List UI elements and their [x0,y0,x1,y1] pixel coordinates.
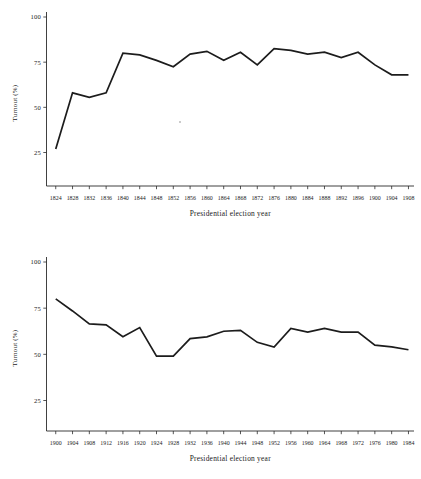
x-tick-label-1908: 1908 [83,440,95,446]
y-tick-label-100: 100 [31,258,42,265]
x-tick-label-1984: 1984 [403,440,415,446]
x-tick-label-1916: 1916 [117,440,129,446]
x-tick-label-1856: 1856 [184,195,196,201]
turnout-line-chart-top: 2550751001824182818321836184018441848185… [0,0,421,239]
x-tick-label-1864: 1864 [218,195,230,201]
x-tick-label-1876: 1876 [268,195,280,201]
x-tick-label-1980: 1980 [386,440,398,446]
axis-lines [47,12,415,186]
x-tick-label-1960: 1960 [302,440,314,446]
y-tick-label-100: 100 [31,13,42,20]
x-tick-label-1872: 1872 [251,195,263,201]
x-tick-label-1900: 1900 [369,195,381,201]
figure-page: 2550751001824182818321836184018441848185… [0,0,421,479]
x-tick-label-1888: 1888 [319,195,331,201]
x-tick-label-1904: 1904 [386,195,398,201]
x-tick-label-1908: 1908 [403,195,415,201]
x-tick-label-1924: 1924 [151,440,163,446]
x-tick-label-1884: 1884 [302,195,314,201]
x-tick-label-1932: 1932 [184,440,196,446]
x-tick-label-1880: 1880 [285,195,297,201]
y-tick-label-75: 75 [34,59,41,66]
x-tick-label-1900: 1900 [50,440,62,446]
x-tick-label-1964: 1964 [319,440,331,446]
x-tick-label-1904: 1904 [67,440,79,446]
y-tick-label-25: 25 [34,149,41,156]
x-tick-label-1840: 1840 [117,195,129,201]
x-tick-label-1912: 1912 [100,440,112,446]
y-tick-label-50: 50 [34,104,41,111]
x-tick-label-1976: 1976 [369,440,381,446]
x-axis-title: Presidential election year [190,454,271,463]
x-tick-label-1944: 1944 [235,440,247,446]
x-tick-label-1852: 1852 [167,195,179,201]
scan-artifact-speck [179,121,181,123]
chart-panel-top: 2550751001824182818321836184018441848185… [0,0,421,239]
x-tick-label-1968: 1968 [335,440,347,446]
y-tick-label-50: 50 [34,351,41,358]
x-tick-label-1860: 1860 [201,195,213,201]
x-tick-label-1868: 1868 [235,195,247,201]
y-tick-label-25: 25 [34,397,41,404]
x-tick-label-1952: 1952 [268,440,280,446]
turnout-line-chart-bottom: 2550751001900190419081912191619201924192… [0,239,421,479]
x-tick-label-1940: 1940 [218,440,230,446]
x-tick-label-1824: 1824 [50,195,62,201]
x-tick-label-1928: 1928 [167,440,179,446]
x-tick-label-1948: 1948 [251,440,263,446]
y-axis-title: Turnout (%) [11,329,19,366]
x-tick-label-1920: 1920 [134,440,146,446]
x-tick-label-1972: 1972 [352,440,364,446]
x-tick-label-1956: 1956 [285,440,297,446]
x-tick-label-1848: 1848 [151,195,163,201]
x-tick-label-1896: 1896 [352,195,364,201]
x-tick-label-1836: 1836 [100,195,112,201]
turnout-series-line [56,299,409,356]
x-tick-label-1832: 1832 [83,195,95,201]
axis-lines [47,257,415,431]
x-tick-label-1892: 1892 [335,195,347,201]
y-axis-title: Turnout (%) [11,84,19,121]
x-tick-label-1828: 1828 [67,195,79,201]
x-tick-label-1844: 1844 [134,195,146,201]
x-axis-title: Presidential election year [190,209,271,218]
x-tick-label-1936: 1936 [201,440,213,446]
turnout-series-line [56,49,409,149]
y-tick-label-75: 75 [34,305,41,312]
chart-panel-bottom: 2550751001900190419081912191619201924192… [0,239,421,479]
